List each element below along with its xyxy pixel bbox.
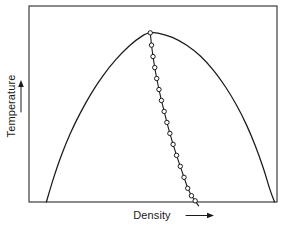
data-point-marker	[168, 131, 172, 135]
figure-container: Temperature Density	[0, 0, 284, 227]
data-point-marker	[151, 54, 155, 58]
data-point-marker	[149, 43, 153, 47]
plot-frame	[29, 6, 277, 202]
data-point-marker	[174, 153, 178, 157]
data-point-markers	[148, 31, 197, 203]
data-point-marker	[171, 142, 175, 146]
data-point-marker	[148, 31, 152, 35]
data-point-marker	[182, 175, 186, 179]
data-point-marker	[186, 186, 190, 190]
data-point-marker	[157, 87, 161, 91]
y-axis-label: Temperature	[5, 75, 17, 138]
arrow-up-icon	[18, 80, 24, 112]
data-point-marker	[178, 164, 182, 168]
data-point-marker	[159, 98, 163, 102]
coexistence-dome-curve	[46, 33, 274, 202]
arrow-right-icon	[186, 213, 214, 218]
data-point-marker	[155, 76, 159, 80]
x-axis-label: Density	[133, 209, 171, 221]
data-point-marker	[153, 65, 157, 69]
data-point-marker	[165, 120, 169, 124]
data-point-marker	[189, 194, 193, 198]
isochore-data-line	[150, 33, 198, 206]
data-point-marker	[193, 199, 197, 203]
data-point-marker	[162, 109, 166, 113]
temperature-density-chart: Temperature Density	[0, 0, 284, 227]
